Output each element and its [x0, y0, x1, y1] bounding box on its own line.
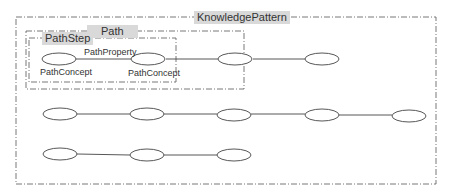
node-row2-4[interactable] [305, 109, 339, 121]
node-row2-2[interactable] [130, 108, 164, 120]
path-label: Path [87, 25, 138, 38]
node-row1-4[interactable] [305, 53, 339, 65]
row-2 [43, 108, 426, 122]
node-row2-1[interactable] [43, 108, 77, 120]
node-row3-2[interactable] [130, 149, 164, 161]
node-row2-5[interactable] [392, 110, 426, 122]
knowledge-pattern-label: KnowledgePattern [194, 11, 290, 24]
node-row3-1[interactable] [43, 148, 77, 160]
row-3 [43, 148, 251, 161]
node-row1-3[interactable] [218, 53, 252, 65]
path-property-label: PathProperty [84, 47, 137, 57]
node-row2-3[interactable] [217, 109, 251, 121]
path-concept-label-1: PathConcept [40, 67, 92, 77]
node-row3-3[interactable] [217, 149, 251, 161]
pathstep-label: PathStep [42, 32, 93, 45]
path-concept-label-2: PathConcept [128, 68, 180, 78]
diagram-canvas [0, 0, 451, 195]
node-path-concept-1[interactable] [42, 53, 76, 65]
